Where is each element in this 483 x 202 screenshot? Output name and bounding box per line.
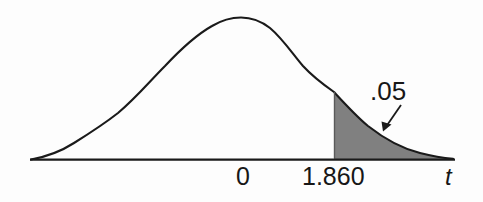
axis-variable-label: t — [445, 164, 452, 189]
axis-tick-label-zero: 0 — [236, 164, 250, 189]
tail-area-label: .05 — [370, 78, 406, 104]
axis-tick-label-critical-value: 1.860 — [302, 164, 365, 189]
t-distribution-figure: 0 1.860 t .05 — [0, 0, 483, 202]
tail-area-annotation-arrow — [382, 105, 402, 132]
